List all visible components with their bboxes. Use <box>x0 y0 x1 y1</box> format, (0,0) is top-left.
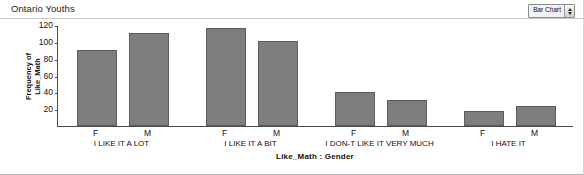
x-axis-subcategory-label: F <box>222 128 227 138</box>
x-axis-group-label: I DON-T LIKE IT VERY MUCH <box>325 139 433 148</box>
x-axis-labels: FMI LIKE IT A LOTFMI LIKE IT A BITFMI DO… <box>57 128 573 154</box>
bar[interactable] <box>464 111 504 126</box>
plot-area: Frequency of Like_Math 20406080100120 <box>57 26 573 127</box>
x-axis-subcategory-label: F <box>351 128 356 138</box>
bar[interactable] <box>516 106 556 126</box>
x-axis-subcategory-label: M <box>402 128 409 138</box>
bar[interactable] <box>206 28 246 126</box>
bar[interactable] <box>77 50 117 126</box>
chart-type-stepper[interactable] <box>564 5 574 17</box>
x-axis-subcategory-label: M <box>144 128 151 138</box>
y-axis-tick-label: 40 <box>44 87 53 97</box>
x-axis-group-label: I LIKE IT A LOT <box>94 139 149 148</box>
y-axis-title-line1: Frequency of <box>24 53 33 100</box>
x-axis-subcategory-label: M <box>531 128 538 138</box>
chart-type-selector[interactable]: Bar Chart <box>528 4 575 18</box>
chart-title-bar: Ontario Youths Bar Chart <box>0 0 584 19</box>
bar[interactable] <box>387 100 427 126</box>
bars-layer <box>58 26 573 126</box>
y-axis-tick-label: 100 <box>39 37 53 47</box>
y-axis-tick-label: 20 <box>44 104 53 114</box>
x-axis-subcategory-label: F <box>480 128 485 138</box>
bar[interactable] <box>129 33 169 126</box>
x-axis-group-label: I LIKE IT A BIT <box>224 139 276 148</box>
bar[interactable] <box>258 41 298 126</box>
y-axis-title-line2: Like_Math <box>33 58 42 95</box>
triangle-down-icon[interactable] <box>568 12 572 15</box>
bar[interactable] <box>335 92 375 127</box>
y-axis-tick-label: 60 <box>44 71 53 81</box>
triangle-up-icon[interactable] <box>568 8 572 11</box>
x-axis-title: Like_Math : Gender <box>57 152 573 161</box>
y-axis-tick-label: 80 <box>44 54 53 64</box>
x-axis-group-label: I HATE IT <box>491 139 526 148</box>
y-axis-tick-label: 120 <box>39 20 53 30</box>
x-axis-subcategory-label: M <box>273 128 280 138</box>
chart-type-value: Bar Chart <box>529 5 564 17</box>
page-title: Ontario Youths <box>11 3 75 14</box>
x-axis-subcategory-label: F <box>93 128 98 138</box>
chart-window: Ontario Youths Bar Chart Frequency of Li… <box>0 0 584 175</box>
